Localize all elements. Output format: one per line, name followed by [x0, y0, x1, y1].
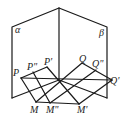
- plane-alpha: [12, 8, 59, 98]
- label-Q-double-prime: Q": [92, 58, 104, 69]
- label-P-double-prime: P": [26, 61, 38, 72]
- label-M: M: [29, 104, 39, 115]
- label-P: P: [12, 67, 19, 78]
- label-Q-prime: Q': [110, 75, 120, 86]
- label-beta: β: [98, 27, 104, 38]
- label-M-prime: M': [76, 104, 88, 115]
- label-P-prime: P': [43, 56, 53, 67]
- label-Q: Q: [79, 53, 87, 64]
- dihedral-angle-diagram: α β P P" P' Q Q" Q' M M" M': [0, 0, 127, 135]
- label-alpha: α: [15, 24, 21, 35]
- label-M-double-prime: M": [45, 104, 59, 115]
